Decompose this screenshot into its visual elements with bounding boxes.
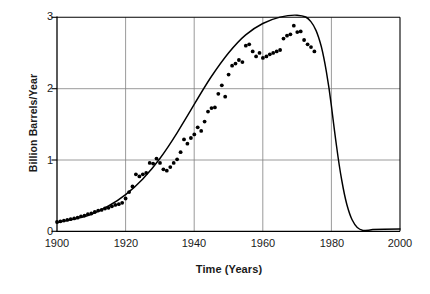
data-point — [285, 34, 289, 38]
data-point — [151, 162, 155, 166]
data-point — [120, 201, 124, 205]
data-point — [220, 83, 224, 87]
data-point — [110, 204, 114, 208]
data-point — [189, 136, 193, 140]
data-point — [117, 202, 121, 206]
data-point — [72, 217, 76, 221]
data-point — [69, 217, 73, 221]
data-point — [234, 62, 238, 66]
data-point — [309, 45, 313, 49]
data-point — [155, 157, 159, 161]
data-point — [186, 142, 190, 146]
data-point — [138, 175, 142, 179]
data-point — [241, 60, 245, 64]
data-point — [79, 214, 83, 218]
data-point — [65, 218, 69, 222]
data-point — [83, 214, 87, 218]
hubbert-fit-curve — [57, 15, 400, 230]
data-point — [93, 210, 97, 214]
data-point — [295, 30, 299, 34]
data-point — [124, 197, 128, 201]
data-point — [158, 161, 162, 165]
axis-frame — [52, 17, 401, 232]
data-point — [59, 219, 63, 223]
data-point — [96, 209, 100, 213]
data-point — [199, 129, 203, 133]
data-point — [165, 169, 169, 173]
data-point — [89, 212, 93, 216]
data-point — [244, 44, 248, 48]
data-point — [172, 161, 176, 165]
data-point — [55, 220, 59, 224]
data-point — [261, 56, 265, 60]
data-point — [230, 64, 234, 68]
data-point-scatter — [55, 24, 316, 224]
data-point — [313, 50, 317, 54]
data-point — [127, 190, 131, 194]
data-point — [289, 32, 293, 36]
data-point — [175, 157, 179, 161]
data-point — [144, 171, 148, 175]
data-point — [179, 150, 183, 154]
data-point — [196, 125, 200, 129]
data-point — [254, 55, 258, 59]
data-point — [62, 219, 66, 223]
data-point — [76, 216, 80, 220]
data-point — [203, 120, 207, 124]
data-point — [216, 92, 220, 96]
data-point — [306, 42, 310, 46]
data-point — [302, 38, 306, 42]
data-point — [192, 133, 196, 137]
data-point — [271, 51, 275, 55]
data-point — [282, 37, 286, 41]
data-point — [268, 52, 272, 56]
data-point — [227, 73, 231, 77]
data-point — [100, 208, 104, 212]
data-point — [168, 165, 172, 169]
data-point — [134, 172, 138, 176]
data-point — [292, 24, 296, 28]
data-point — [275, 50, 279, 54]
data-point — [223, 95, 227, 99]
data-point — [107, 206, 111, 210]
data-point — [265, 55, 269, 59]
data-point — [247, 42, 251, 46]
data-point — [113, 203, 117, 207]
data-point — [206, 110, 210, 114]
data-point — [131, 185, 135, 189]
data-point — [278, 48, 282, 52]
fit-curve-path — [57, 15, 400, 230]
plot-svg — [0, 0, 430, 294]
data-point — [182, 138, 186, 142]
data-point — [162, 167, 166, 171]
chart-container: Billion Barrels/Year Time (Years) 3 2 1 … — [0, 0, 430, 294]
data-point — [103, 207, 107, 211]
grid-lines — [57, 17, 400, 231]
data-point — [141, 172, 145, 176]
data-point — [213, 106, 217, 110]
data-point — [237, 58, 241, 62]
data-point — [148, 161, 152, 165]
data-point — [258, 51, 262, 55]
data-point — [251, 50, 255, 54]
data-point — [299, 30, 303, 34]
data-point — [210, 106, 214, 110]
data-point — [86, 212, 90, 216]
